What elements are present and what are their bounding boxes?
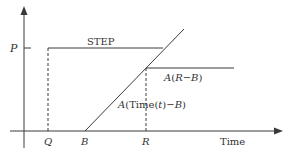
plateau-b: B [190, 72, 198, 83]
x-tick-label-r: R [141, 136, 150, 147]
ramp-annotation: A(Time(t)−B) [117, 99, 186, 110]
x-axis-label-time: Time [220, 136, 245, 147]
diagram-canvas: P STEP Q B R Time A)(R−B) A(Time(t)−B) [0, 0, 287, 154]
x-axis-arrowhead-icon [274, 128, 283, 135]
ramp-close: ) [182, 99, 186, 110]
x-tick-label-q: Q [44, 136, 52, 147]
plateau-a: A [163, 72, 171, 83]
step-label: STEP [87, 36, 115, 47]
ramp-a: A [117, 99, 125, 110]
plateau-annotation: A)(R−B) [163, 72, 202, 83]
y-axis-label-p: P [9, 42, 18, 55]
y-axis-arrowhead-icon [21, 6, 28, 15]
plateau-minus: − [183, 72, 191, 83]
ramp-b: B [174, 99, 182, 110]
ramp-time-open: (Time( [125, 99, 158, 110]
x-tick-label-b: B [80, 136, 88, 147]
plateau-close: ) [198, 72, 202, 83]
ramp-mid: )− [162, 99, 174, 110]
